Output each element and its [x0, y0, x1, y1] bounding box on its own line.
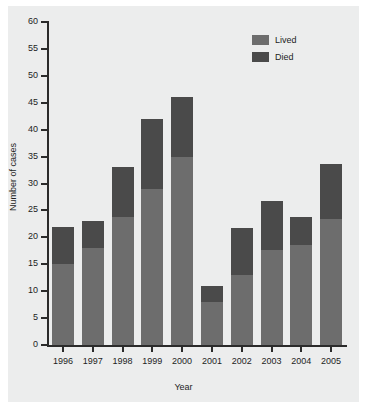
bar-segment-lived-2003 [261, 250, 283, 345]
x-axis-tick [181, 347, 183, 352]
bar-1999 [141, 22, 163, 345]
bar-segment-died-2000 [171, 97, 193, 156]
bar-segment-lived-1999 [141, 189, 163, 345]
y-axis-tick [41, 129, 47, 131]
y-axis-tick-label: 50 [16, 71, 38, 80]
bar-1996 [52, 22, 74, 345]
died-swatch [252, 52, 269, 62]
bar-2003 [261, 22, 283, 345]
y-axis-tick-label: 10 [16, 286, 38, 295]
x-axis-title: Year [0, 382, 367, 392]
bar-2005 [320, 22, 342, 345]
y-axis-tick-label: 15 [16, 259, 38, 268]
bar-segment-lived-2001 [201, 302, 223, 345]
bar-segment-died-1996 [52, 227, 74, 265]
x-axis-tick [62, 347, 64, 352]
x-axis-tick [271, 347, 273, 352]
y-axis-tick-label: 40 [16, 125, 38, 134]
x-axis-tick [211, 347, 213, 352]
y-axis-tick-label: 0 [16, 340, 38, 349]
y-axis-tick-label: 25 [16, 205, 38, 214]
y-axis-tick [41, 21, 47, 23]
bar-segment-died-1999 [141, 119, 163, 189]
bar-segment-lived-1996 [52, 264, 74, 345]
y-axis-tick-label: 55 [16, 44, 38, 53]
x-axis-tick-label: 2005 [314, 356, 348, 366]
bar-2002 [231, 22, 253, 345]
y-axis-tick [41, 209, 47, 211]
bar-2004 [290, 22, 312, 345]
y-axis-tick-label: 45 [16, 98, 38, 107]
y-axis-tick-label: 5 [16, 313, 38, 322]
y-axis-tick-label: 20 [16, 232, 38, 241]
y-axis-tick [41, 317, 47, 319]
y-axis-tick [41, 48, 47, 50]
x-axis-tick [300, 347, 302, 352]
y-axis-tick [41, 75, 47, 77]
bar-segment-lived-2000 [171, 157, 193, 345]
bar-segment-lived-2002 [231, 275, 253, 345]
y-axis-tick-label: 60 [16, 17, 38, 26]
y-axis-title: Number of cases [8, 117, 18, 237]
legend-label: Lived [275, 35, 297, 45]
y-axis-tick-label: 35 [16, 152, 38, 161]
bar-2000 [171, 22, 193, 345]
y-axis-tick [41, 236, 47, 238]
y-axis-tick [41, 156, 47, 158]
y-axis-tick [41, 183, 47, 185]
lived-swatch [252, 35, 269, 45]
legend-item-died: Died [252, 50, 336, 64]
bar-segment-died-1998 [112, 167, 134, 217]
legend-item-lived: Lived [252, 33, 336, 47]
y-axis-tick-label: 30 [16, 179, 38, 188]
y-axis-tick [41, 290, 47, 292]
bar-segment-died-2004 [290, 217, 312, 244]
x-axis-tick [330, 347, 332, 352]
bar-2001 [201, 22, 223, 345]
bar-segment-lived-1998 [112, 217, 134, 345]
y-axis-tick [41, 263, 47, 265]
bar-segment-died-2002 [231, 228, 253, 275]
bar-segment-died-2005 [320, 164, 342, 218]
bar-segment-lived-2005 [320, 219, 342, 346]
bar-1998 [112, 22, 134, 345]
bar-segment-died-1997 [82, 221, 104, 248]
bar-segment-died-2003 [261, 201, 283, 250]
bar-1997 [82, 22, 104, 345]
legend-label: Died [275, 52, 294, 62]
bar-segment-lived-1997 [82, 248, 104, 345]
bar-segment-died-2001 [201, 286, 223, 302]
x-axis-tick [241, 347, 243, 352]
x-axis-tick [151, 347, 153, 352]
x-axis-tick [122, 347, 124, 352]
chart-figure: 051015202530354045505560 199619971998199… [0, 0, 367, 420]
chart-legend: LivedDied [252, 33, 336, 67]
bar-segment-lived-2004 [290, 245, 312, 345]
x-axis-tick [92, 347, 94, 352]
y-axis-tick [41, 102, 47, 104]
plot-area [48, 22, 346, 345]
y-axis-tick [41, 344, 47, 346]
